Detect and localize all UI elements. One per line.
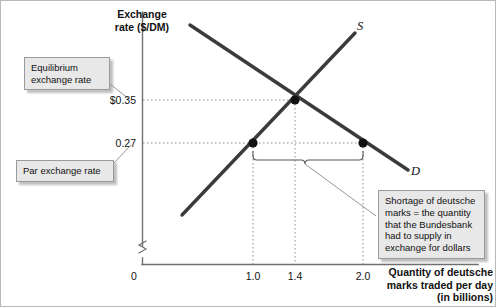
demand-curve-label: D [411, 164, 420, 179]
y-tick-label-035: $0.35 [84, 94, 136, 106]
x-tick-label-two: 2.0 [349, 270, 377, 282]
guide-lines [143, 100, 364, 264]
shortage-brace [253, 151, 363, 164]
leader-shortage [305, 164, 376, 216]
x-tick-label-one: 1.0 [239, 270, 267, 282]
chart-plot-area [0, 0, 497, 308]
exchange-rate-chart-figure: Exchange rate ($/DM) Quantity of deutsch… [0, 0, 497, 308]
callout-equilibrium-exchange-rate: Equilibrium exchange rate [24, 57, 110, 90]
supply-curve-label: S [357, 19, 363, 34]
x-tick-label-zero: 0 [127, 270, 141, 282]
x-tick-label-onefour: 1.4 [281, 270, 309, 282]
callout-par-exchange-rate: Par exchange rate [16, 160, 114, 182]
x-axis-title: Quantity of deutsche marks traded per da… [385, 266, 493, 304]
y-axis-break-icon [139, 241, 146, 253]
marker-quantity-supplied [248, 138, 257, 147]
y-axis-title: Exchange rate ($/DM) [104, 8, 180, 33]
supply-curve [182, 33, 355, 215]
y-tick-label-027: 0.27 [84, 137, 136, 149]
callout-shortage-explanation: Shortage of deutsche marks = the quantit… [378, 190, 485, 259]
marker-equilibrium [290, 95, 299, 104]
demand-curve [190, 25, 408, 170]
marker-quantity-demanded [358, 138, 367, 147]
